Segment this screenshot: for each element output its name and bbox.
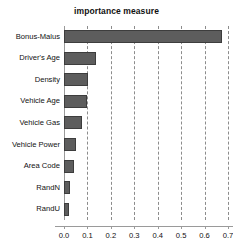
x-tick-label: 0.5	[169, 231, 193, 240]
x-tick	[64, 226, 65, 229]
bar-row	[64, 134, 228, 156]
bar-row	[64, 112, 228, 134]
bar	[64, 138, 76, 151]
importance-measure-chart: importance measure Bonus-MalusDriver's A…	[0, 0, 233, 252]
bar-row	[64, 155, 228, 177]
bar	[64, 95, 87, 108]
x-tick-label: 0.3	[122, 231, 146, 240]
y-axis-label: RandU	[0, 204, 60, 213]
bar	[64, 73, 88, 86]
x-tick	[181, 226, 182, 229]
bar-row	[64, 198, 228, 220]
x-tick	[158, 226, 159, 229]
bar-row	[64, 26, 228, 48]
y-axis-label: Density	[0, 75, 60, 84]
x-axis-line	[55, 226, 233, 227]
y-axis-label: Vehicle Gas	[0, 118, 60, 127]
bar-row	[64, 91, 228, 113]
chart-title: importance measure	[0, 6, 233, 16]
plot-area	[64, 26, 228, 220]
x-tick-label: 0.0	[52, 231, 76, 240]
y-axis-label: Vehicle Power	[0, 140, 60, 149]
bar-row	[64, 177, 228, 199]
bar	[64, 181, 70, 194]
x-tick-label: 0.2	[99, 231, 123, 240]
bar	[64, 116, 82, 129]
x-tick-label: 0.4	[146, 231, 170, 240]
x-tick	[228, 226, 229, 229]
bar-row	[64, 48, 228, 70]
y-axis-label: Driver's Age	[0, 53, 60, 62]
y-axis-label: Vehicle Age	[0, 96, 60, 105]
y-axis-label: Bonus-Malus	[0, 32, 60, 41]
x-tick	[205, 226, 206, 229]
y-axis-label: Area Code	[0, 161, 60, 170]
bar	[64, 203, 69, 216]
x-tick	[111, 226, 112, 229]
bar	[64, 52, 96, 65]
bar-row	[64, 69, 228, 91]
x-tick-label: 0.7	[216, 231, 233, 240]
x-tick-label: 0.6	[193, 231, 217, 240]
x-tick	[134, 226, 135, 229]
y-axis-labels: Bonus-MalusDriver's AgeDensityVehicle Ag…	[0, 26, 60, 220]
y-axis-label: RandN	[0, 183, 60, 192]
bar	[64, 30, 222, 43]
gridline-0.7	[228, 26, 229, 220]
x-tick-label: 0.1	[75, 231, 99, 240]
x-tick	[87, 226, 88, 229]
bar	[64, 160, 74, 173]
